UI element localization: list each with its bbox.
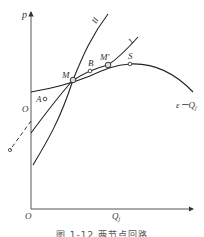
point-b-label: B (88, 58, 94, 68)
eps-q-label: ε－Qj (176, 100, 197, 111)
point-b (88, 69, 92, 73)
dashed-extension (10, 121, 31, 150)
point-s-label: S (128, 51, 133, 61)
point-m-label: M (61, 70, 70, 80)
y-axis-label: p (21, 9, 27, 20)
x-axis-label: Qj (112, 211, 121, 222)
point-m (70, 77, 76, 83)
origin-label: O (25, 211, 32, 221)
eps-q-curve (31, 64, 193, 92)
point-a (43, 97, 47, 101)
figure-caption: 图 1-12 两节点回路 (0, 228, 204, 237)
curve-ii-label: II (89, 16, 100, 26)
point-m-prime (105, 62, 111, 68)
point-o-label: O (22, 104, 29, 114)
curve-i (31, 37, 138, 133)
point-m-prime-label: M' (99, 52, 110, 62)
point-s (128, 62, 132, 66)
diagram-figure: p O Qj II I ε－Qj M M' S A B O (0, 0, 204, 237)
point-a-label: A (35, 94, 42, 104)
